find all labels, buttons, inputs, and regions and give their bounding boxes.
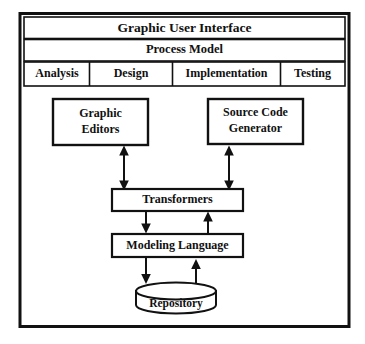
arrow-repository-to-modeling-language [191, 259, 201, 286]
transformers-label: Transformers [142, 192, 213, 206]
tab-implementation[interactable]: Implementation [186, 66, 268, 80]
arrow-transformers-to-modeling-language [141, 211, 151, 234]
arrow-graphic-editors-transformers [119, 146, 129, 191]
source-code-generator-label-line1: Source Code [223, 105, 288, 119]
tab-analysis[interactable]: Analysis [35, 66, 79, 80]
repository-label: Repository [149, 297, 203, 310]
title-bar-label: Graphic User Interface [118, 20, 252, 35]
arrow-source-code-generator-transformers [224, 146, 234, 191]
arrow-modeling-language-to-repository [141, 257, 151, 284]
tab-design[interactable]: Design [114, 66, 149, 80]
architecture-diagram: Graphic User Interface Process Model Ana… [0, 0, 365, 344]
modeling-language-label: Modeling Language [126, 238, 229, 252]
tab-testing[interactable]: Testing [294, 66, 331, 80]
arrow-modeling-language-to-transformers [203, 212, 213, 235]
source-code-generator-label-line2: Generator [229, 121, 283, 135]
graphic-editors-label-line2: Editors [81, 122, 119, 136]
subtitle-bar-label: Process Model [146, 42, 224, 56]
graphic-editors-label-line1: Graphic [79, 106, 122, 120]
